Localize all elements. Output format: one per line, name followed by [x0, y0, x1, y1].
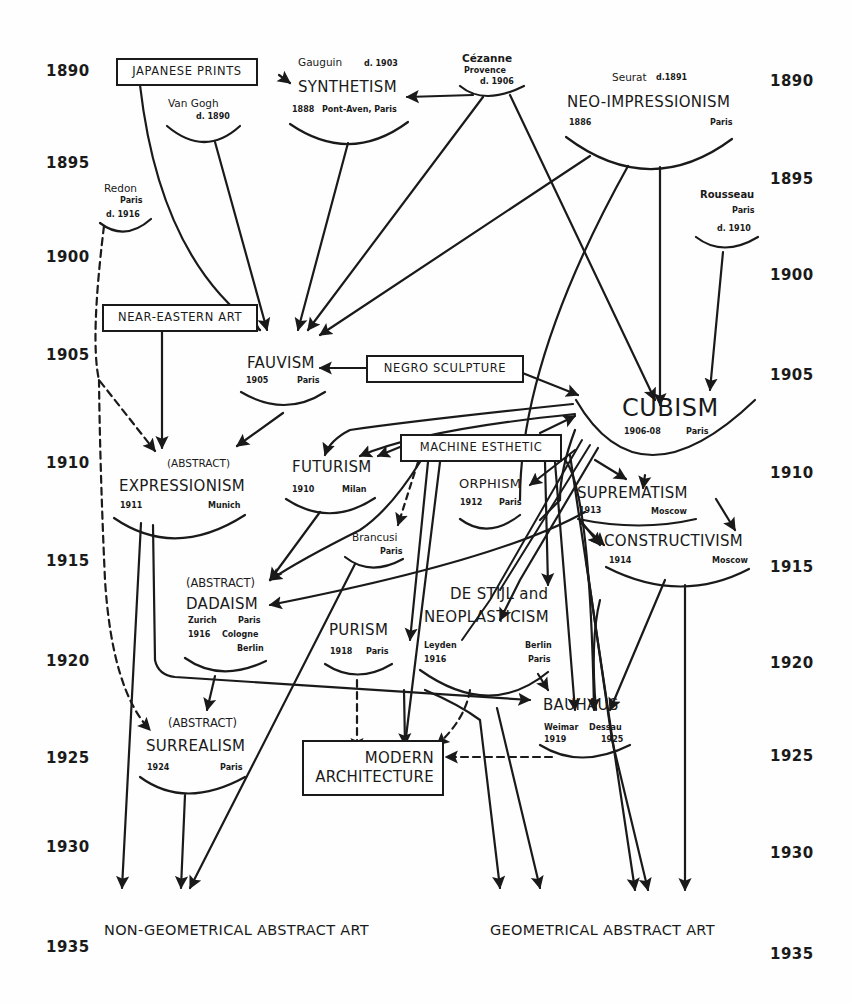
year-right-1925: 1925	[770, 749, 814, 764]
dadaism-place3: Cologne	[222, 631, 258, 639]
van-gogh-name: Van Gogh	[168, 98, 219, 109]
cubism-year: 1906-08	[624, 428, 661, 436]
fauvism-arc	[241, 392, 325, 405]
year-right-1905: 1905	[770, 368, 814, 383]
neo-impressionism-name: NEO-IMPRESSIONISM	[567, 95, 730, 110]
bauhaus-year2: 1925	[601, 736, 623, 744]
year-right-1935: 1935	[770, 947, 814, 962]
brancusi-name: Brancusi	[352, 532, 397, 543]
rousseau-death: d. 1910	[717, 225, 751, 233]
modern-architecture-label-2: ARCHITECTURE	[315, 770, 434, 785]
neo-impressionism-arc	[566, 137, 732, 169]
van-gogh-death: d. 1890	[196, 113, 230, 121]
de-stijl-place3: Paris	[528, 656, 551, 664]
rousseau-arc	[696, 237, 758, 248]
suprematism-name: SUPREMATISM	[577, 486, 688, 501]
year-left-1920: 1920	[46, 654, 90, 669]
neo-impressionism-place: Paris	[710, 119, 733, 127]
purism-arc	[325, 664, 392, 675]
modern-architecture-box: MODERN ARCHITECTURE	[302, 740, 444, 796]
de-stijl-year: 1916	[424, 656, 446, 664]
expressionism-name: EXPRESSIONISM	[119, 479, 245, 494]
de-stijl-arc	[420, 670, 548, 696]
modern-architecture-label-1: MODERN	[365, 751, 434, 766]
cubism-place: Paris	[686, 428, 709, 436]
futurism-year: 1910	[292, 486, 314, 494]
japanese-prints-box: JAPANESE PRINTS	[116, 58, 258, 86]
synthetism-place: Pont-Aven, Paris	[322, 106, 397, 114]
redon-place: Paris	[120, 197, 143, 205]
orphism-year: 1912	[460, 499, 482, 507]
futurism-arc	[286, 498, 375, 513]
year-left-1930: 1930	[46, 840, 90, 855]
dadaism-name: DADAISM	[186, 597, 258, 612]
brancusi-place: Paris	[380, 548, 403, 556]
gauguin-name: Gauguin	[298, 57, 342, 68]
year-right-1915: 1915	[770, 560, 814, 575]
year-right-1895: 1895	[770, 172, 814, 187]
gauguin-death: d. 1903	[364, 60, 398, 68]
orphism-arc	[460, 515, 520, 529]
expressionism-prefix: (ABSTRACT)	[167, 458, 230, 469]
year-right-1890: 1890	[770, 74, 814, 89]
suprematism-place: Moscow	[651, 508, 687, 516]
synthetism-name: SYNTHETISM	[298, 80, 397, 95]
cezanne-name: Cézanne	[462, 53, 512, 64]
neo-impressionism-year: 1886	[569, 119, 591, 127]
year-right-1920: 1920	[770, 656, 814, 671]
year-right-1900: 1900	[770, 268, 814, 283]
diagram-canvas: 1890 1895 1900 1905 1910 1915 1920 1925 …	[0, 0, 852, 1003]
futurism-place: Milan	[342, 486, 367, 494]
synthetism-year: 1888	[292, 106, 314, 114]
year-left-1910: 1910	[46, 456, 90, 471]
dadaism-place4: Berlin	[237, 645, 264, 653]
orphism-place: Paris	[499, 499, 522, 507]
surrealism-year: 1924	[147, 764, 169, 772]
year-left-1905: 1905	[46, 348, 90, 363]
expressionism-year: 1911	[120, 502, 142, 510]
negro-sculpture-label: NEGRO SCULPTURE	[384, 363, 506, 375]
expressionism-arc	[114, 515, 245, 538]
bauhaus-place2: Dessau	[589, 724, 622, 732]
near-eastern-art-box: NEAR-EASTERN ART	[102, 304, 258, 332]
machine-esthetic-box: MACHINE ESTHETIC	[400, 434, 562, 462]
van-gogh-arc	[167, 126, 240, 142]
de-stijl-place1: Leyden	[424, 642, 457, 650]
seurat-name: Seurat	[612, 72, 647, 83]
machine-esthetic-label: MACHINE ESTHETIC	[420, 442, 543, 454]
cezanne-death: d. 1906	[480, 78, 514, 86]
purism-place: Paris	[366, 648, 389, 656]
constructivism-arc	[606, 567, 749, 587]
year-left-1890: 1890	[46, 64, 90, 79]
cubism-name: CUBISM	[622, 396, 719, 420]
year-right-1910: 1910	[770, 466, 814, 481]
year-right-1930: 1930	[770, 846, 814, 861]
de-stijl-name-2: NEOPLASTICISM	[424, 610, 549, 625]
non-geometrical-abstract-art: NON-GEOMETRICAL ABSTRACT ART	[104, 923, 369, 938]
year-left-1915: 1915	[46, 554, 90, 569]
suprematism-year: 1913	[579, 507, 601, 515]
dadaism-arc	[185, 658, 266, 671]
fauvism-name: FAUVISM	[247, 356, 315, 371]
fauvism-place: Paris	[297, 377, 320, 385]
year-left-1900: 1900	[46, 250, 90, 265]
dadaism-prefix: (ABSTRACT)	[186, 578, 255, 590]
surrealism-arc	[140, 777, 245, 794]
suprematism-arc	[578, 519, 696, 526]
dadaism-year: 1916	[188, 631, 210, 639]
bauhaus-place1: Weimar	[544, 724, 578, 732]
geometrical-abstract-art: GEOMETRICAL ABSTRACT ART	[490, 923, 715, 938]
futurism-name: FUTURISM	[292, 460, 371, 475]
purism-name: PURISM	[329, 623, 388, 638]
redon-death: d. 1916	[106, 211, 140, 219]
year-left-1895: 1895	[46, 156, 90, 171]
constructivism-place: Moscow	[712, 557, 748, 565]
de-stijl-name-1: DE STIJL and	[450, 587, 548, 602]
constructivism-name: CONSTRUCTIVISM	[604, 534, 743, 549]
negro-sculpture-box: NEGRO SCULPTURE	[366, 355, 524, 383]
bauhaus-year1: 1919	[544, 736, 566, 744]
seurat-death: d.1891	[656, 74, 687, 82]
year-left-1925: 1925	[46, 751, 90, 766]
redon-name: Redon	[104, 183, 137, 194]
near-eastern-art-label: NEAR-EASTERN ART	[118, 312, 242, 324]
